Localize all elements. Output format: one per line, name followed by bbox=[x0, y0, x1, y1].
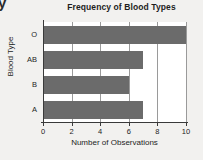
x-tick-mark bbox=[157, 122, 158, 126]
x-tick-mark bbox=[129, 122, 130, 126]
y-axis-title: Blood Type bbox=[6, 17, 15, 97]
x-axis-line bbox=[41, 122, 188, 123]
x-tick-label: 2 bbox=[62, 127, 82, 136]
bar bbox=[43, 26, 186, 44]
chart-title: Frequency of Blood Types bbox=[40, 2, 203, 12]
x-tick-mark bbox=[43, 122, 44, 126]
bar bbox=[43, 51, 143, 69]
x-axis-title: Number of Observations bbox=[43, 138, 186, 147]
bar bbox=[43, 101, 143, 119]
x-tick-mark bbox=[72, 122, 73, 126]
x-tick-mark bbox=[100, 122, 101, 126]
x-tick-label: 6 bbox=[119, 127, 139, 136]
gridline bbox=[186, 22, 187, 122]
x-tick-label: 0 bbox=[33, 127, 53, 136]
x-tick-mark bbox=[186, 122, 187, 126]
x-tick-label: 8 bbox=[147, 127, 167, 136]
chart-figure: y Frequency of Blood Types 0246810 ABABO… bbox=[0, 0, 203, 160]
y-axis-line bbox=[43, 20, 44, 124]
y-tick-label: A bbox=[0, 105, 37, 114]
bar bbox=[43, 76, 129, 94]
x-tick-label: 10 bbox=[176, 127, 196, 136]
stray-glyph: y bbox=[0, 0, 6, 10]
x-tick-label: 4 bbox=[90, 127, 110, 136]
